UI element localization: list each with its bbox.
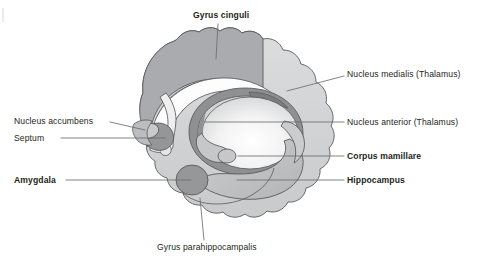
corpus-mamillare-bulb [218,149,236,163]
label-nucleus-accumbens: Nucleus accumbens [14,117,93,126]
label-gyrus-cinguli: Gyrus cinguli [193,11,249,20]
figure-canvas: Gyrus cinguli Nucleus medialis (Thalamus… [0,0,491,263]
label-nucleus-anterior-thalamus: Nucleus anterior (Thalamus) [347,118,458,127]
label-hippocampus: Hippocampus [347,176,405,185]
label-amygdala: Amygdala [14,176,56,185]
label-septum: Septum [14,134,44,143]
limbic-system-diagram [0,0,491,263]
label-corpus-mamillare: Corpus mamillare [347,152,421,161]
label-gyrus-parahippocampalis: Gyrus parahippocampalis [157,243,257,252]
label-nucleus-medialis-thalamus: Nucleus medialis (Thalamus) [347,70,461,79]
